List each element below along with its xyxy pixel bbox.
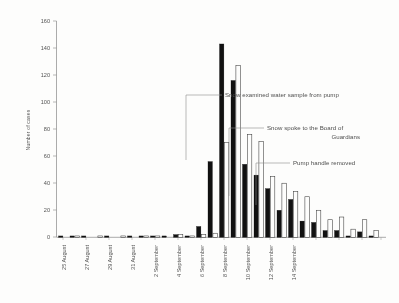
bar-attacks [323,231,327,238]
bar-attacks [300,221,304,237]
y-tick-label: 100 [41,99,50,105]
bar-deaths [75,236,79,237]
bar-deaths [305,197,309,238]
bar-attacks [128,236,132,237]
cholera-bar-chart: 160 140 120 100 80 60 40 20 0 Number of … [0,0,399,303]
bar-attacks [289,199,293,237]
x-tick-label: 14 September [291,245,297,280]
x-tick-label: 29 August [107,245,113,270]
bar-attacks [358,232,362,237]
y-tick-label: 80 [44,126,50,132]
bar-deaths [155,236,159,237]
bar-attacks [185,236,189,237]
bar-attacks [59,236,63,237]
y-tick-label: 120 [41,72,50,78]
annotation-board-of-guardians-line2: Guardians [331,133,360,140]
y-tick-label: 20 [44,207,50,213]
x-tick-label: 8 September [222,245,228,277]
bar-attacks [277,210,281,237]
bar-attacks [220,44,224,237]
bar-attacks [197,226,201,237]
bar-deaths [259,141,263,237]
bar-deaths [247,135,251,238]
bar-deaths [144,236,148,237]
bar-attacks [369,236,373,237]
x-tick-label: 4 September [176,245,182,277]
bar-deaths [282,183,286,237]
bar-attacks [243,164,247,237]
bar-attacks [151,236,155,237]
chart-figure: 160 140 120 100 80 60 40 20 0 Number of … [0,0,399,303]
y-axis: 160 140 120 100 80 60 40 20 0 Number of … [25,18,57,240]
x-tick-label: 12 September [268,245,274,280]
bar-deaths [270,176,274,237]
y-tick-label: 60 [44,153,50,159]
bar-deaths [362,220,366,238]
bar-deaths [293,191,297,237]
bar-deaths [201,235,205,238]
y-tick-label: 160 [41,18,50,24]
annotation-water-sample-text: Snow examined water sample from pump [225,91,339,98]
bar-attacks [266,189,270,238]
bar-attacks [346,236,350,237]
bar-attacks [208,162,212,238]
leader-line-water-sample [186,95,222,160]
bar-deaths [316,210,320,237]
y-axis-label: Number of cases [25,109,31,150]
y-tick-label: 40 [44,180,50,186]
bar-deaths [178,235,182,238]
x-tick-label: 2 September [153,245,159,277]
x-axis: 25 August 27 August 29 August 31 August … [57,237,387,280]
bar-deaths [190,236,194,237]
bar-attacks [105,236,109,237]
y-tick-label: 0 [47,234,50,240]
bar-attacks [162,236,166,237]
bar-attacks [335,231,339,238]
x-tick-label: 31 August [130,245,136,270]
bar-deaths [98,236,102,237]
bar-attacks [70,236,74,237]
bar-attacks [174,235,178,238]
y-tick-label: 140 [41,45,50,51]
bar-attacks [231,80,235,237]
annotation-board-of-guardians-line1: Snow spoke to the Board of [267,124,343,131]
x-tick-label: 27 August [84,245,90,270]
annotation-pump-handle-text: Pump handle removed [293,159,355,166]
bar-deaths [351,229,355,237]
x-tick-label: 25 August [61,245,67,270]
bar-deaths [339,217,343,237]
bar-deaths [328,220,332,238]
bar-attacks [139,236,143,237]
bar-attacks [312,222,316,237]
bar-attacks [82,236,86,237]
bar-deaths [213,233,217,237]
bar-deaths [374,231,378,238]
bar-deaths [121,236,125,237]
bar-deaths [224,143,228,238]
x-tick-label: 6 September [199,245,205,277]
x-tick-label: 10 September [245,245,251,280]
annotation-labels: Snow examined water sample from pump Sno… [225,91,360,166]
bars-layer [59,44,379,237]
